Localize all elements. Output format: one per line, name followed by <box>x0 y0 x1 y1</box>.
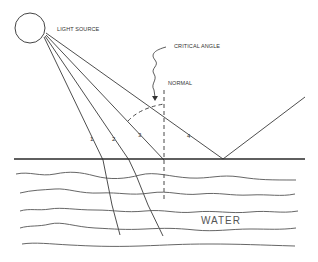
critical-angle-arc <box>128 104 164 121</box>
ray-2-label: 2 <box>112 136 116 142</box>
refraction-diagram: LIGHT SOURCE 1 2 3 4 NORMAL CRITICAL ANG… <box>0 0 318 262</box>
wave-line-1 <box>16 172 296 180</box>
light-source-label: LIGHT SOURCE <box>57 26 100 32</box>
critical-angle-arrowhead-icon <box>152 96 158 101</box>
critical-angle-label: CRITICAL ANGLE <box>174 43 220 49</box>
critical-angle-pointer <box>153 47 166 97</box>
ray-2-refracted <box>129 160 163 236</box>
wave-line-5 <box>22 243 295 246</box>
ray-3-label: 3 <box>138 132 142 138</box>
wave-line-3 <box>20 208 298 212</box>
ray-1-incident <box>44 37 103 160</box>
ray-4-reflected <box>223 97 305 159</box>
wave-line-4 <box>20 223 296 231</box>
ray-3-incident <box>46 35 164 160</box>
water-label: WATER <box>201 215 241 226</box>
wave-line-2 <box>20 189 295 195</box>
ray-2-incident <box>45 36 129 160</box>
ray-1-refracted <box>103 160 120 235</box>
light-source-circle <box>15 13 45 43</box>
normal-label: NORMAL <box>168 80 192 86</box>
